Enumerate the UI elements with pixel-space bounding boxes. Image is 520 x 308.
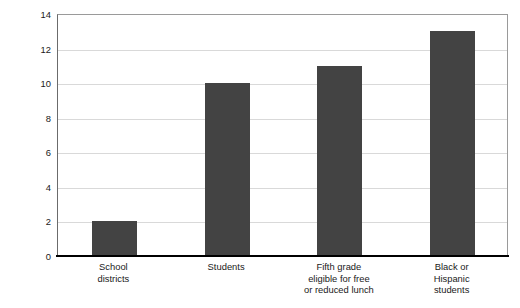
x-axis-line <box>56 255 509 257</box>
bar-chart: Percent of districts, students served by… <box>0 0 520 308</box>
x-tick-label-line: students <box>377 284 520 296</box>
y-tick-label: 2 <box>46 217 51 227</box>
y-tick-label: 8 <box>46 114 51 124</box>
y-tick-label: 4 <box>46 183 51 193</box>
bar <box>430 31 475 256</box>
plot-area: 02468101214 <box>57 14 508 256</box>
bar <box>92 221 137 256</box>
y-tick-label: 12 <box>41 45 51 55</box>
y-tick-label: 14 <box>41 10 51 20</box>
bar <box>205 83 250 256</box>
y-tick-label: 6 <box>46 148 51 158</box>
x-tick-label-line: Hispanic <box>377 273 520 285</box>
x-tick-label-line: districts <box>38 273 188 285</box>
y-tick-label: 10 <box>41 79 51 89</box>
x-tick-label: Black orHispanicstudents <box>377 261 520 296</box>
x-tick-label-line: Black or <box>377 261 520 273</box>
bar <box>317 66 362 256</box>
